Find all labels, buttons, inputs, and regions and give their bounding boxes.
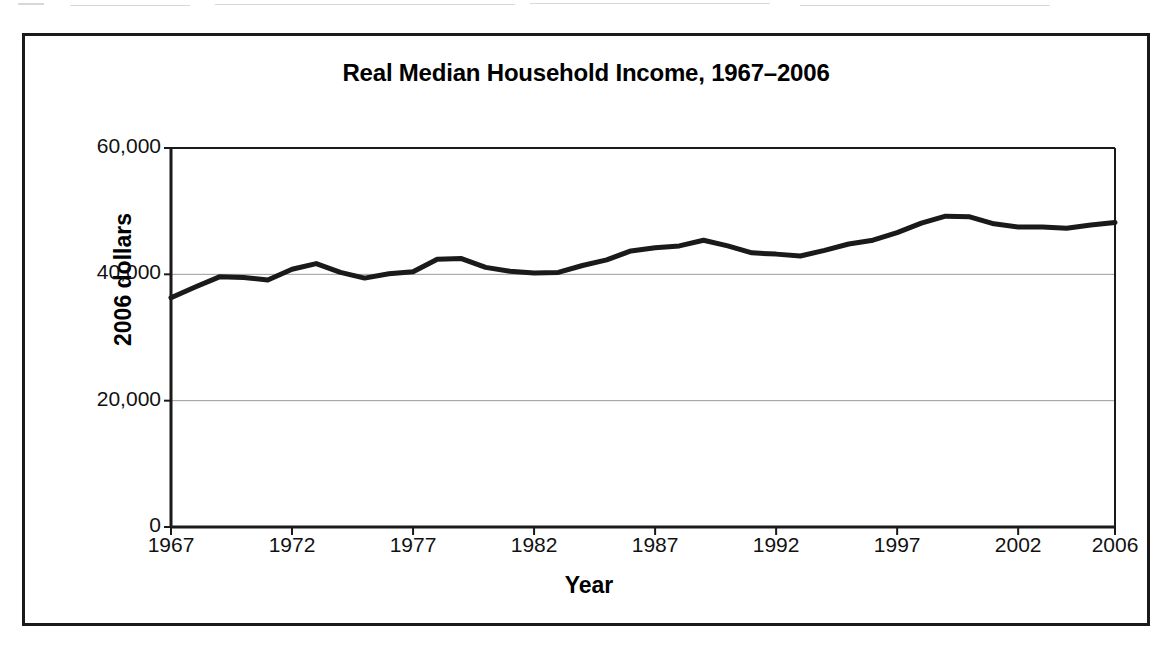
x-tick-label-1982: 1982 — [511, 533, 558, 557]
scan-smudge — [70, 5, 190, 6]
axis-lines — [171, 148, 1115, 527]
x-tick-label-1967: 1967 — [148, 533, 195, 557]
scan-smudge — [18, 3, 44, 5]
scan-smudge — [215, 4, 515, 5]
scan-smudge — [530, 3, 770, 4]
gridlines — [171, 148, 1115, 527]
line-chart-svg — [171, 148, 1115, 527]
y-tick-label-40000: 40,000 — [97, 260, 161, 284]
x-tick-label-1992: 1992 — [753, 533, 800, 557]
chart-figure: Real Median Household Income, 1967–2006 … — [22, 33, 1150, 626]
x-tick-label-2006: 2006 — [1092, 533, 1139, 557]
chart-title: Real Median Household Income, 1967–2006 — [25, 59, 1147, 87]
x-tick-label-2002: 2002 — [995, 533, 1042, 557]
scan-smudge — [800, 5, 1050, 6]
x-axis-tick-labels: 196719721977198219871992199720022006 — [171, 533, 1115, 563]
axis-tickmarks — [164, 148, 1115, 535]
x-tick-label-1972: 1972 — [269, 533, 316, 557]
x-tick-label-1977: 1977 — [390, 533, 437, 557]
y-axis-tick-labels: 020,00040,00060,000 — [61, 148, 161, 527]
income-line-series — [171, 216, 1115, 297]
plot-area — [171, 148, 1115, 527]
y-tick-label-60000: 60,000 — [97, 134, 161, 158]
x-tick-label-1987: 1987 — [632, 533, 679, 557]
x-axis-title: Year — [25, 572, 1153, 599]
y-tick-label-20000: 20,000 — [97, 387, 161, 411]
scan-artifact — [0, 0, 1173, 14]
x-tick-label-1997: 1997 — [874, 533, 921, 557]
